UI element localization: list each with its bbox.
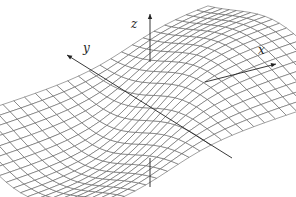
- surface-mesh: [0, 6, 296, 197]
- y-axis-arrowhead-icon: [67, 55, 72, 60]
- x-axis-label: x: [258, 44, 265, 56]
- surface-plot: x y z: [0, 0, 296, 197]
- z-axis-label: z: [131, 18, 137, 30]
- z-axis-arrowhead-icon: [148, 14, 152, 19]
- y-axis-label: y: [83, 42, 90, 54]
- wireframe-surface: [0, 0, 296, 197]
